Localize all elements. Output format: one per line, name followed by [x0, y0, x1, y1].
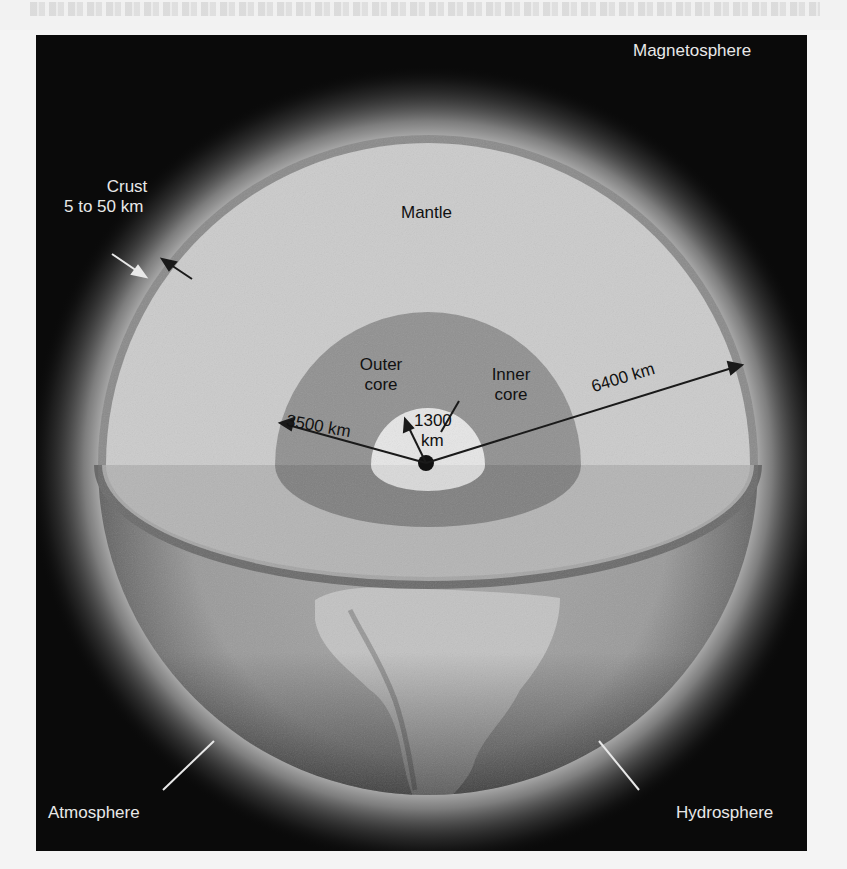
label-magnetosphere: Magnetosphere — [633, 41, 751, 61]
label-outer-core-1: Outer — [351, 355, 411, 375]
label-atmosphere: Atmosphere — [48, 803, 140, 823]
earth-diagram-panel: Magnetosphere Crust 5 to 50 km Mantle Ou… — [36, 35, 807, 851]
label-hydrosphere: Hydrosphere — [676, 803, 773, 823]
label-mantle: Mantle — [401, 203, 452, 223]
label-inner-core-1: Inner — [481, 365, 541, 385]
label-outer-core-2: core — [351, 375, 411, 395]
label-crust-thickness: 5 to 50 km — [64, 197, 143, 217]
label-inner-core-2: core — [481, 385, 541, 405]
label-inner-core-radius-value: 1300 — [414, 411, 452, 431]
label-inner-core-radius-unit: km — [421, 431, 444, 451]
preceding-text-fragment — [0, 0, 847, 30]
label-crust: Crust — [92, 177, 162, 197]
